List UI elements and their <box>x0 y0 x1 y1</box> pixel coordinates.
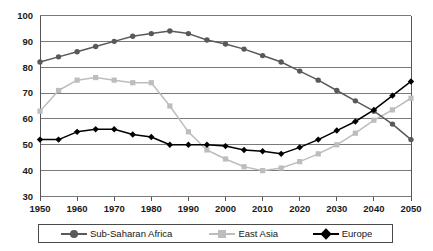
legend-symbol <box>70 230 78 238</box>
legend-marker-diamond-icon <box>313 228 339 239</box>
data-point <box>353 98 358 103</box>
data-point <box>241 147 247 153</box>
x-tick-label: 1970 <box>104 203 125 214</box>
y-tick-label: 100 <box>17 10 33 21</box>
x-tick-label: 1980 <box>141 203 162 214</box>
y-axis-tick-labels: 30405060708090100 <box>17 10 33 202</box>
data-point <box>56 88 61 93</box>
data-point <box>112 78 117 83</box>
data-point <box>260 53 265 58</box>
data-point <box>390 107 395 112</box>
data-point <box>371 118 376 123</box>
data-point <box>93 44 98 49</box>
data-point <box>149 80 154 85</box>
data-point <box>56 54 61 59</box>
data-point <box>130 131 136 137</box>
data-point <box>148 134 154 140</box>
data-point <box>37 59 42 64</box>
data-point <box>279 165 284 170</box>
data-point <box>316 77 321 82</box>
data-point <box>75 78 80 83</box>
legend-item-sub-saharan-africa: Sub-Saharan Africa <box>39 225 194 242</box>
data-point <box>278 151 284 157</box>
data-point <box>74 129 80 135</box>
data-point <box>111 126 117 132</box>
series-east-asia <box>37 75 413 173</box>
legend-label: Sub-Saharan Africa <box>90 228 172 239</box>
line-chart: 30405060708090100 1950196019701980199020… <box>0 0 433 251</box>
data-point <box>185 142 191 148</box>
y-tick-label: 30 <box>22 191 33 202</box>
series-layer <box>37 28 414 173</box>
data-point <box>241 164 246 169</box>
data-point <box>222 143 228 149</box>
data-point <box>241 46 246 51</box>
legend-marker-circle-icon <box>61 228 87 239</box>
data-point <box>223 156 228 161</box>
y-tick-label: 60 <box>22 113 33 124</box>
data-point <box>260 168 265 173</box>
data-point <box>297 68 302 73</box>
chart-container: 30405060708090100 1950196019701980199020… <box>0 0 433 251</box>
data-point <box>316 151 321 156</box>
x-tick-label: 1990 <box>178 203 199 214</box>
x-axis-tick-labels: 1950196019701980199020002010202020302040… <box>29 203 421 214</box>
data-point <box>55 136 61 142</box>
data-point <box>167 103 172 108</box>
legend-label: East Asia <box>238 228 278 239</box>
y-tick-label: 50 <box>22 139 33 150</box>
legend-symbol <box>218 230 226 238</box>
data-point <box>278 59 283 64</box>
data-point <box>408 96 413 101</box>
data-point <box>93 75 98 80</box>
data-point <box>259 148 265 154</box>
y-tick-label: 70 <box>22 87 33 98</box>
data-point <box>334 142 339 147</box>
data-point <box>204 147 209 152</box>
data-point <box>408 137 413 142</box>
x-tick-label: 2050 <box>400 203 421 214</box>
series-sub-saharan-africa <box>37 28 413 142</box>
x-tick-label: 1950 <box>29 203 50 214</box>
legend-item-europe: Europe <box>293 225 392 242</box>
data-point <box>223 41 228 46</box>
chart-legend: Sub-Saharan Africa East Asia Europe <box>38 224 393 243</box>
y-tick-label: 40 <box>22 165 33 176</box>
data-point <box>130 80 135 85</box>
data-point <box>334 88 339 93</box>
data-point <box>186 31 191 36</box>
data-point <box>204 37 209 42</box>
legend-marker-square-icon <box>209 228 235 239</box>
x-tick-label: 2000 <box>215 203 236 214</box>
data-point <box>149 31 154 36</box>
y-tick-label: 90 <box>22 36 33 47</box>
data-point <box>37 136 43 142</box>
legend-item-east-asia: East Asia <box>194 225 293 242</box>
x-tick-label: 2040 <box>363 203 384 214</box>
data-point <box>353 131 358 136</box>
data-point <box>297 159 302 164</box>
x-tick-label: 1960 <box>67 203 88 214</box>
data-point <box>74 49 79 54</box>
data-point <box>112 39 117 44</box>
data-point <box>186 129 191 134</box>
data-point <box>92 126 98 132</box>
x-tick-label: 2010 <box>252 203 273 214</box>
legend-symbol <box>320 228 331 239</box>
legend-label: Europe <box>342 228 373 239</box>
data-point <box>315 136 321 142</box>
x-tick-label: 2030 <box>326 203 347 214</box>
y-tick-label: 80 <box>22 62 33 73</box>
data-point <box>390 121 395 126</box>
data-point <box>130 33 135 38</box>
x-tick-label: 2020 <box>289 203 310 214</box>
data-point <box>37 109 42 114</box>
data-point <box>334 127 340 133</box>
data-point <box>167 142 173 148</box>
data-point <box>167 28 172 33</box>
